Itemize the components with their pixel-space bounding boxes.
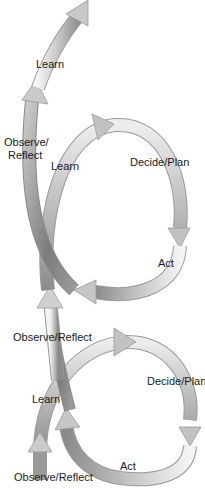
lower-arrowhead-top — [114, 328, 136, 356]
label-upper-decide: Decide/Plan — [130, 156, 189, 169]
upper-arrowhead-right — [168, 228, 190, 248]
spiral-learning-diagram — [0, 0, 205, 489]
label-lower-learn: Learn — [32, 393, 60, 406]
lower-arrowhead-right — [179, 427, 201, 446]
label-upper-act: Act — [158, 257, 174, 270]
label-upper-learn: Learn — [51, 160, 79, 173]
label-upper-observe-2: Reflect — [8, 149, 42, 162]
label-lower-act: Act — [120, 460, 136, 473]
label-top-learn: Learn — [36, 58, 64, 71]
lower-arrowhead-act — [55, 408, 80, 430]
label-lower-decide: Decide/Plan — [147, 375, 205, 388]
bottom-observe-arrowhead — [28, 432, 52, 452]
label-bottom-observe: Observe/Reflect — [14, 471, 93, 484]
label-middle-observe: Observe/Reflect — [13, 331, 92, 344]
label-upper-observe-1: Observe/ — [4, 136, 49, 149]
